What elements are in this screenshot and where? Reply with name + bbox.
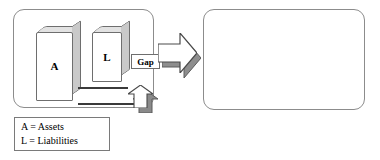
liabilities-block-side-face	[121, 20, 130, 76]
assets-block: A	[36, 26, 81, 101]
up-arrow-3d-icon	[128, 85, 158, 113]
gap-label-box: Gap	[131, 54, 160, 69]
liabilities-block-label: L	[103, 52, 110, 63]
connector-arrow-front	[158, 33, 197, 73]
assets-block-side-face	[72, 20, 81, 95]
legend-item-liabilities: L = Liabilities	[21, 134, 109, 148]
assets-block-label: A	[51, 61, 59, 72]
diagram-canvas: A L Gap A = As	[0, 0, 380, 160]
balance-rule-top	[78, 87, 128, 89]
up-arrow-front	[128, 85, 153, 108]
right-arrow-3d-icon	[158, 33, 202, 78]
liabilities-block: L	[92, 26, 130, 82]
legend-item-assets: A = Assets	[21, 120, 109, 134]
legend-box: A = Assets L = Liabilities	[14, 117, 110, 151]
time-profile-panel: Time profile of gaps Time	[203, 9, 365, 110]
liabilities-block-front-face: L	[92, 32, 122, 82]
assets-block-front-face: A	[36, 32, 73, 101]
balance-sheet-panel: A L Gap	[13, 9, 154, 108]
